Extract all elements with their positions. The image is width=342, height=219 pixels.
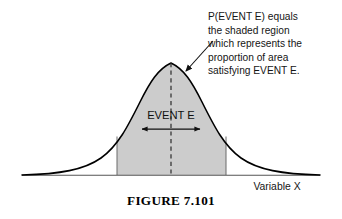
annotation-line-4: proportion of area: [208, 52, 289, 63]
event-e-label: EVENT E: [147, 109, 195, 121]
annotation-line-1: P(EVENT E) equals: [208, 11, 298, 22]
figure-caption: FIGURE 7.101: [0, 193, 342, 209]
annotation-text-block: P(EVENT E) equals the shaded region whic…: [207, 11, 302, 76]
figure-container: EVENT E P(EVENT E) equals the shaded reg…: [0, 0, 342, 219]
annotation-line-3: which represents the: [207, 38, 302, 49]
x-axis-label: Variable X: [253, 181, 300, 192]
annotation-line-5: satisfying EVENT E.: [208, 65, 300, 76]
normal-distribution-diagram: EVENT E P(EVENT E) equals the shaded reg…: [0, 0, 342, 219]
annotation-line-2: the shaded region: [208, 25, 290, 36]
